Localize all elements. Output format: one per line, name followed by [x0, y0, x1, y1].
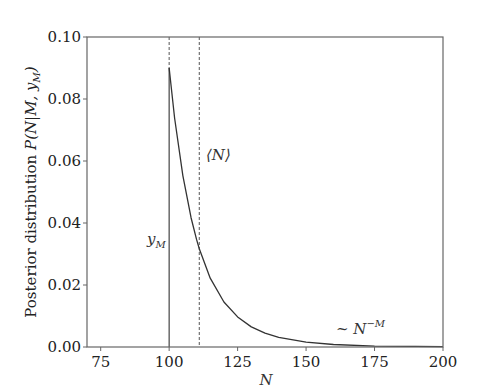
- y-tick-label: 0.02: [48, 276, 81, 294]
- x-tick-label: 150: [292, 353, 321, 371]
- axes: 751001251501752000.000.020.040.060.080.1…: [48, 28, 458, 371]
- x-tick-label: 200: [429, 353, 458, 371]
- plot-frame: [87, 37, 443, 347]
- y-tick-label: 0.10: [48, 28, 81, 46]
- x-tick-label: 100: [155, 353, 184, 371]
- y-tick-label: 0.08: [48, 90, 81, 108]
- y-tick-label: 0.04: [48, 214, 81, 232]
- x-tick-label: 175: [360, 353, 389, 371]
- mean-annotation: ⟨N⟩: [206, 146, 231, 164]
- x-tick-label: 75: [91, 353, 110, 371]
- x-axis-label: N: [258, 371, 273, 389]
- y-tick-label: 0.06: [48, 152, 81, 170]
- plot-area: [169, 37, 443, 347]
- x-tick-label: 125: [223, 353, 252, 371]
- posterior-curve: [169, 68, 443, 347]
- y-tick-label: 0.00: [48, 338, 81, 356]
- posterior-chart: 751001251501752000.000.020.040.060.080.1…: [0, 0, 484, 389]
- ym-annotation: yM: [146, 230, 166, 250]
- y-axis-label: Posterior distribution P(N|M, yM): [22, 66, 42, 317]
- tail-annotation: ~ N−M: [336, 318, 386, 338]
